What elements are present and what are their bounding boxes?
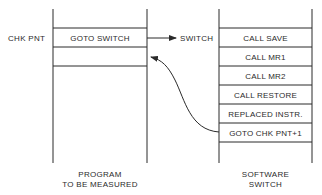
- switch-caption-line1: SOFTWARE: [242, 170, 289, 179]
- switch-entry-label: SWITCH: [180, 34, 213, 43]
- return-curve-arrow: [151, 57, 219, 132]
- software-switch-diagram: CHK PNT GOTO SWITCH PROGRAM TO BE MEASUR…: [0, 0, 322, 195]
- switch-caption-line2: SWITCH: [249, 180, 282, 189]
- goto-switch-cell: GOTO SWITCH: [70, 34, 129, 43]
- chk-pnt-label: CHK PNT: [8, 34, 45, 43]
- call-restore-cell: CALL RESTORE: [234, 91, 297, 100]
- call-mr2-cell: CALL MR2: [245, 72, 286, 81]
- program-caption-line2: TO BE MEASURED: [62, 180, 138, 189]
- program-caption-line1: PROGRAM: [78, 170, 121, 179]
- call-mr1-cell: CALL MR1: [245, 53, 286, 62]
- call-save-cell: CALL SAVE: [243, 34, 288, 43]
- software-switch-column: SWITCH CALL SAVE CALL MR1 CALL MR2 CALL …: [180, 9, 312, 189]
- replaced-instr-cell: REPLACED INSTR.: [228, 110, 303, 119]
- program-column: CHK PNT GOTO SWITCH PROGRAM TO BE MEASUR…: [8, 9, 147, 189]
- goto-chk-pnt-plus1-cell: GOTO CHK PNT+1: [229, 129, 302, 138]
